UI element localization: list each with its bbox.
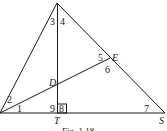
point-t-label: T	[54, 115, 61, 126]
right-side	[57, 3, 165, 113]
angle-3-label: 3	[50, 16, 55, 27]
angle-4-label: 4	[60, 16, 65, 27]
angle-2-label: 2	[7, 94, 12, 105]
angle-7-label: 7	[144, 103, 149, 114]
angle-5-label: 5	[98, 52, 103, 63]
angle-9-label: 9	[50, 103, 55, 114]
point-e-label: E	[111, 52, 118, 63]
figure-caption: Fig. 1.18	[62, 126, 95, 131]
angle-6-label: 6	[105, 64, 110, 75]
point-d-label: D	[48, 77, 57, 88]
point-s-label: S	[159, 115, 164, 126]
angle-1-label: 1	[17, 103, 22, 114]
angle-8-label: 8	[59, 103, 64, 114]
geometry-figure: 3 4 5 E 6 D 2 1 9 8 7 T S Fig. 1.18	[0, 0, 167, 131]
